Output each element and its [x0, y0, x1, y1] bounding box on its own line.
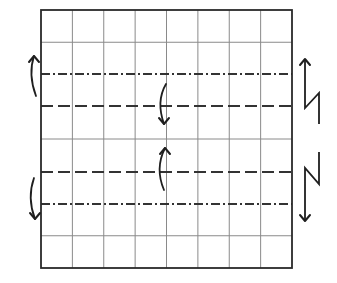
grid-lines [41, 10, 292, 268]
fold-arrow-center-upper [160, 84, 166, 124]
curved-arrow-up-icon [29, 56, 39, 96]
curved-arrow-up-icon [160, 148, 170, 190]
pleat-arrow-down-icon [300, 152, 319, 221]
arrowhead-icon [159, 118, 169, 124]
fold-arrow-left-lower [31, 178, 35, 219]
arrowhead-icon [30, 213, 40, 219]
fold-arrows [29, 56, 170, 219]
pleat-arrow-upper-right [305, 59, 319, 124]
fold-arrow-left-upper [31, 56, 36, 96]
pleat-arrows [300, 59, 319, 221]
pleat-arrow-lower-right [305, 152, 319, 221]
fold-diagram [0, 0, 337, 283]
curved-arrow-down-icon [159, 84, 169, 124]
arrowhead-icon [160, 148, 170, 154]
pleat-arrow-up-icon [300, 59, 319, 124]
curved-arrow-down-icon [30, 178, 40, 219]
